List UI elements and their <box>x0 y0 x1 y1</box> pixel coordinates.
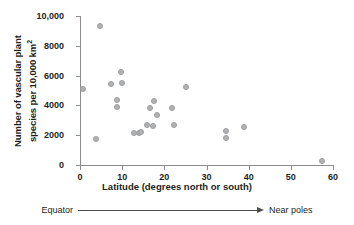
y-axis-title: Number of vascular plant species per 10,… <box>12 7 38 175</box>
arrow-shaft <box>78 210 258 211</box>
arrow-head <box>257 207 264 213</box>
data-point <box>97 23 103 29</box>
y-tick-2000 <box>76 135 80 136</box>
data-point <box>171 122 177 128</box>
y-tick-label-10000: 10,000 <box>36 11 64 21</box>
annotation-right-label: Near poles <box>269 205 313 215</box>
data-point <box>80 86 86 92</box>
y-tick-6000 <box>76 76 80 77</box>
x-tick-60 <box>333 166 334 170</box>
data-point <box>223 135 229 141</box>
y-axis-title-line1: Number of vascular plant <box>12 7 24 175</box>
y-axis-title-line2-text: species per 10,000 km <box>27 44 38 142</box>
data-point <box>138 129 144 135</box>
x-tick-0 <box>80 166 81 170</box>
data-point <box>169 105 175 111</box>
y-axis-title-line2: species per 10,000 km2 <box>23 7 38 175</box>
data-point <box>154 112 160 118</box>
right-arrow-icon <box>78 206 264 215</box>
y-tick-label-6000: 6000 <box>44 71 64 81</box>
y-axis-title-superscript: 2 <box>25 40 32 44</box>
data-point <box>108 81 114 87</box>
equator-poles-annotation: Equator Near poles <box>0 202 354 218</box>
y-tick-4000 <box>76 105 80 106</box>
scatter-plot-figure: Number of vascular plant species per 10,… <box>0 0 354 225</box>
data-point <box>147 105 153 111</box>
data-point <box>223 128 229 134</box>
x-axis-title: Latitude (degrees north or south) <box>0 181 354 192</box>
y-tick-10000 <box>76 16 80 17</box>
data-point <box>319 158 325 164</box>
y-tick-label-0: 0 <box>59 160 64 170</box>
y-tick-label-8000: 8000 <box>44 41 64 51</box>
data-point <box>118 69 124 75</box>
x-tick-40 <box>249 166 250 170</box>
data-point <box>119 80 125 86</box>
data-point <box>241 124 247 130</box>
x-tick-20 <box>164 166 165 170</box>
data-point <box>114 97 120 103</box>
data-point <box>93 136 99 142</box>
x-tick-10 <box>122 166 123 170</box>
y-tick-label-4000: 4000 <box>44 100 64 110</box>
data-point <box>150 123 156 129</box>
plot-area: 10,000 8000 6000 4000 2000 0 0 10 20 30 … <box>80 16 333 165</box>
annotation-left-label: Equator <box>41 205 73 215</box>
x-tick-30 <box>207 166 208 170</box>
y-tick-label-2000: 2000 <box>44 130 64 140</box>
x-tick-50 <box>291 166 292 170</box>
y-tick-8000 <box>76 46 80 47</box>
data-point <box>114 104 120 110</box>
data-point <box>183 84 189 90</box>
data-point <box>151 98 157 104</box>
